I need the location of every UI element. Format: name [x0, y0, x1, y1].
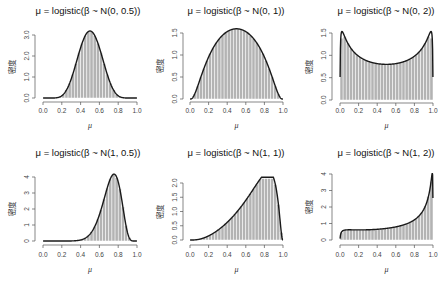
x-axis-label: μ: [233, 121, 238, 130]
histogram-bar: [380, 229, 383, 240]
histogram-bar: [346, 43, 349, 100]
y-tick-label: 2: [23, 207, 30, 211]
y-tick-label: 0.0: [171, 94, 178, 103]
y-axis: 0.00.51.01.5: [320, 28, 332, 104]
histogram-bar: [215, 43, 218, 99]
histogram-bar: [258, 180, 261, 240]
x-tick-label: 0.2: [204, 107, 213, 114]
histogram-bar: [374, 63, 377, 100]
y-tick-label: 1.0: [23, 72, 30, 81]
histogram-bar: [264, 178, 267, 240]
x-tick-label: 0.6: [95, 251, 104, 258]
histogram-bar: [421, 48, 424, 100]
y-tick-label: 0.5: [320, 73, 327, 82]
x-tick-label: 1.0: [278, 107, 287, 114]
x-tick-label: 0.0: [185, 107, 194, 114]
histogram-bar: [399, 226, 402, 240]
x-tick-label: 0.6: [241, 107, 250, 114]
x-tick-label: 1.0: [428, 251, 437, 258]
x-tick-label: 1.0: [278, 251, 287, 258]
figure-canvas: 0.01.02.03.00.00.20.40.60.81.0μ密度μ = log…: [0, 0, 444, 281]
x-axis: 0.00.20.40.60.81.0: [335, 103, 437, 114]
histogram-bar: [390, 64, 393, 100]
y-tick-label: 1: [320, 221, 327, 225]
histogram-bar: [246, 33, 249, 99]
histogram-bar: [368, 230, 371, 240]
histogram-bar: [227, 31, 230, 99]
histogram-bar: [387, 64, 390, 100]
x-tick-label: 0.8: [114, 107, 123, 114]
x-tick-label: 0.0: [335, 251, 344, 258]
x-axis-label: μ: [383, 121, 388, 130]
panel-title: μ = logistic(β ~ N(0, 0.5)): [36, 5, 141, 16]
y-tick-label: 3.0: [23, 30, 30, 39]
histogram-bar: [359, 230, 362, 240]
x-tick-label: 0.0: [185, 251, 194, 258]
y-tick-label: 1.5: [320, 28, 327, 37]
histogram-bar: [209, 54, 212, 99]
histogram-bar: [371, 63, 374, 100]
y-tick-label: 1.0: [171, 207, 178, 216]
histogram-bar: [362, 59, 365, 100]
histogram-bar: [224, 224, 227, 240]
x-tick-label: 0.4: [76, 107, 85, 114]
y-tick-label: 0.0: [23, 93, 30, 102]
histogram-bar: [261, 54, 264, 99]
histogram-bars: [340, 37, 433, 100]
panel-title: μ = logistic(β ~ N(1, 1)): [188, 147, 285, 158]
histogram-bar: [402, 225, 405, 240]
y-axis: 0.00.51.01.5: [171, 28, 183, 103]
histogram-bar: [84, 36, 87, 98]
y-axis: 0.00.51.01.52.0: [171, 178, 183, 244]
x-tick-label: 0.8: [410, 251, 419, 258]
histogram-bar: [230, 30, 233, 99]
histogram-bar: [218, 39, 221, 99]
y-axis-label: 密度: [155, 58, 165, 73]
histogram-bar: [349, 230, 352, 240]
histogram-bar: [343, 230, 346, 240]
histogram-bar: [424, 43, 427, 100]
histogram-bar: [411, 221, 414, 240]
histogram-bar: [255, 184, 258, 240]
histogram-bar: [418, 52, 421, 100]
histogram-bars: [52, 175, 137, 241]
y-tick-label: 0.0: [171, 235, 178, 244]
x-axis: 0.00.20.40.60.81.0: [335, 245, 437, 258]
histogram-bars: [46, 32, 134, 98]
histogram-bar: [356, 230, 359, 240]
x-tick-label: 0.8: [114, 251, 123, 258]
y-axis: 01234: [23, 175, 35, 243]
y-tick-label: 2.0: [171, 178, 178, 187]
y-tick-label: 2: [320, 205, 327, 209]
histogram-bar: [383, 229, 386, 240]
histogram-bar: [365, 61, 368, 100]
y-axis-label: 密度: [304, 199, 314, 214]
x-tick-label: 0.6: [95, 107, 104, 114]
histogram-bar: [393, 227, 396, 240]
histogram-bar: [271, 178, 274, 240]
x-tick-label: 0.2: [204, 251, 213, 258]
x-tick-label: 0.0: [38, 107, 47, 114]
x-tick-label: 0.8: [260, 251, 269, 258]
histogram-bar: [99, 53, 102, 98]
x-tick-label: 0.6: [391, 107, 400, 114]
histogram-bar: [380, 64, 383, 100]
y-tick-label: 0.5: [171, 221, 178, 230]
x-tick-label: 0.4: [223, 107, 232, 114]
y-tick-label: 3: [23, 191, 30, 195]
histogram-bar: [362, 230, 365, 240]
histogram-bar: [252, 39, 255, 99]
y-axis-label: 密度: [155, 204, 165, 219]
histogram-bar: [411, 57, 414, 100]
x-tick-label: 1.0: [132, 107, 141, 114]
histogram-bar: [261, 178, 264, 240]
histogram-bar: [343, 37, 346, 100]
histogram-bar: [346, 230, 349, 240]
histogram-bar: [255, 43, 258, 99]
y-tick-label: 1.5: [171, 28, 178, 37]
histogram-bars: [190, 29, 283, 99]
histogram-bar: [377, 229, 380, 240]
x-tick-label: 1.0: [132, 251, 141, 258]
histogram-bar: [396, 227, 399, 240]
y-axis-label: 密度: [7, 201, 17, 216]
